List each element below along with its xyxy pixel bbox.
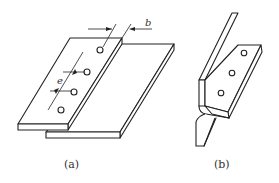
hole-icon — [58, 107, 64, 113]
diagram-canvas: b e (a) (b) — [0, 0, 279, 183]
dimension-label-e: e — [57, 75, 63, 86]
hole-icon — [241, 50, 247, 56]
dimension-label-b: b — [145, 17, 151, 28]
caption-a: (a) — [64, 158, 79, 171]
hole-icon — [97, 47, 103, 53]
hole-icon — [229, 70, 235, 76]
hole-icon — [218, 90, 224, 96]
panel-b: (b) — [196, 13, 262, 171]
hole-icon — [71, 89, 77, 95]
caption-b: (b) — [214, 158, 230, 171]
panel-a: b e (a) — [18, 17, 174, 171]
